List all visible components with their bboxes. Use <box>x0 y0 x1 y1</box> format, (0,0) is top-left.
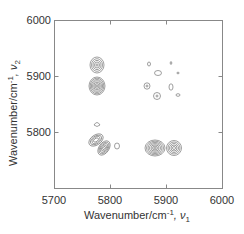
y-tick-5900: 5900 <box>27 70 51 82</box>
peak-upper-left-small <box>90 57 104 73</box>
peak-lower-right-a <box>145 140 165 156</box>
peak-lower-left-b <box>95 139 112 158</box>
upper-right-cluster <box>144 62 180 100</box>
x-tick-5800: 5800 <box>98 194 122 206</box>
x-tick-6000: 6000 <box>210 194 234 206</box>
axis-ticks <box>55 21 223 189</box>
y-tick-6000: 6000 <box>27 14 51 26</box>
y-tick-5800: 5800 <box>27 126 51 138</box>
peak-small-circle <box>115 143 120 149</box>
x-tick-5900: 5900 <box>154 194 178 206</box>
peak-small-loop <box>94 123 100 127</box>
contour-lines <box>87 57 182 157</box>
x-axis-label: Wavenumber/cm-1, ν1 <box>84 208 190 224</box>
y-axis-label: Wavenumber/cm-1, ν2 <box>6 60 22 166</box>
x-tick-5700: 5700 <box>42 194 66 206</box>
peak-upper-left-large <box>89 77 105 95</box>
peak-lower-right-b <box>167 141 182 156</box>
contour-figure: 5700 5800 5900 6000 5800 5900 6000 Waven… <box>0 0 244 234</box>
plot-frame <box>55 21 223 189</box>
